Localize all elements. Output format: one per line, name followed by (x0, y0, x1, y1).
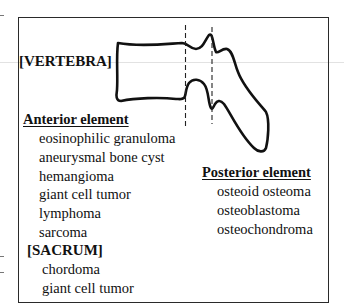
posterior-item: osteoid osteoma (217, 182, 311, 200)
sacrum-item: chordoma (42, 260, 100, 278)
anterior-item: lymphoma (39, 204, 101, 222)
anterior-item: hemangioma (39, 167, 114, 185)
posterior-item: osteoblastoma (217, 201, 300, 219)
anterior-item: sarcoma (39, 223, 87, 241)
posterior-item: osteochondroma (217, 220, 313, 238)
posterior-heading: Posterior element (202, 163, 311, 181)
sacrum-heading: [SACRUM] (27, 241, 103, 259)
vertebra-label: [VERTEBRA] (19, 52, 112, 70)
anterior-item: eosinophilic granuloma (39, 129, 176, 147)
anterior-item: aneurysmal bone cyst (39, 148, 165, 166)
sacrum-item: giant cell tumor (42, 279, 134, 297)
anterior-item: giant cell tumor (39, 185, 131, 203)
anterior-heading: Anterior element (23, 110, 129, 128)
